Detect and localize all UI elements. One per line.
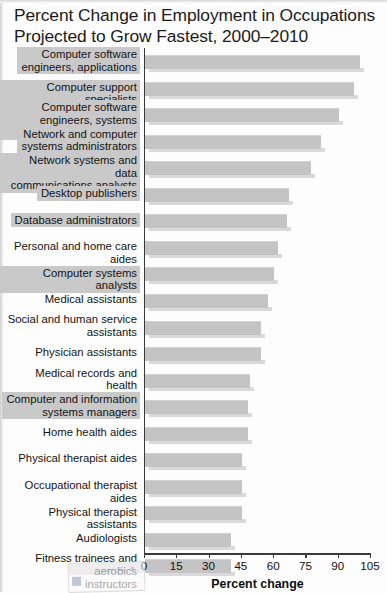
app-icon — [72, 577, 81, 586]
page-top-edge — [0, 0, 387, 3]
minimize-icon[interactable]: – — [107, 565, 114, 572]
bar-row — [145, 559, 231, 572]
background-window-artifact[interactable]: – □ × — [68, 561, 146, 593]
y-axis-label: Physical therapist aides — [14, 451, 140, 466]
bar-row — [145, 55, 360, 68]
x-axis-tick — [176, 553, 177, 558]
bar-row — [145, 374, 250, 387]
bar[interactable] — [145, 267, 274, 281]
y-axis-label: Computer systems analysts — [0, 266, 140, 293]
x-axis-title: Percent change — [144, 577, 371, 591]
x-axis-tick — [144, 553, 145, 558]
bar[interactable] — [145, 400, 248, 414]
y-axis-label: Social and human service assistants — [4, 312, 140, 339]
y-axis-label: Personal and home care aides — [0, 239, 140, 266]
bar-row — [145, 453, 242, 466]
y-axis-label: Home health aides — [39, 425, 140, 440]
maximize-icon[interactable]: □ — [118, 565, 125, 572]
bar-row — [145, 533, 231, 546]
x-axis-tick-label: 45 — [234, 559, 247, 572]
x-axis-tick — [241, 553, 242, 558]
bar-row — [145, 267, 274, 280]
bar-row — [145, 347, 261, 360]
y-axis-label: Physical therapist assistants — [0, 505, 140, 532]
bar[interactable] — [145, 108, 339, 122]
bar-row — [145, 427, 248, 440]
bar[interactable] — [145, 294, 268, 308]
x-axis-tick — [370, 553, 371, 558]
bar[interactable] — [145, 135, 321, 149]
x-axis-tick-label: 30 — [202, 559, 215, 572]
x-axis-tick — [209, 553, 210, 558]
bar-chart: Computer software engineers, application… — [0, 48, 387, 560]
bar-row — [145, 321, 261, 334]
bar[interactable] — [145, 506, 242, 520]
x-axis-tick-label: 60 — [267, 559, 280, 572]
x-axis-tick-label: 105 — [360, 559, 379, 572]
bar[interactable] — [145, 374, 250, 388]
x-axis-tick — [305, 553, 306, 558]
bar-row — [145, 108, 339, 121]
chart-title: Percent Change in Employment in Occupati… — [14, 5, 382, 46]
y-axis-label: Network and computer systems administrat… — [17, 127, 140, 154]
y-axis-label: Database administrators — [11, 213, 140, 228]
y-axis-label: Occupational therapist aides — [0, 478, 140, 505]
bar[interactable] — [145, 427, 248, 441]
x-axis-tick-label: 90 — [331, 559, 344, 572]
bar-row — [145, 188, 289, 201]
plot-area — [144, 48, 371, 553]
y-axis-label: Computer software engineers, application… — [17, 47, 140, 74]
y-axis-label: Medical assistants — [41, 292, 140, 307]
bar[interactable] — [145, 533, 231, 547]
bar-row — [145, 294, 268, 307]
bar[interactable] — [145, 161, 311, 175]
bar[interactable] — [145, 347, 261, 361]
y-axis-label: Audiologists — [72, 531, 140, 546]
bar-row — [145, 400, 248, 413]
x-axis-tick-label: 75 — [299, 559, 312, 572]
x-axis-tick — [273, 553, 274, 558]
bar[interactable] — [145, 321, 261, 335]
bar[interactable] — [145, 214, 287, 228]
y-axis-label: Computer and information systems manager… — [2, 392, 140, 419]
bar-row — [145, 82, 354, 95]
bar[interactable] — [145, 241, 278, 255]
bar[interactable] — [145, 82, 354, 96]
x-axis-tick-label: 15 — [170, 559, 183, 572]
bar-row — [145, 161, 311, 174]
bar[interactable] — [145, 55, 360, 69]
y-axis-label: Desktop publishers — [37, 186, 140, 201]
bar-row — [145, 506, 242, 519]
x-axis-tick — [338, 553, 339, 558]
bar-row — [145, 214, 287, 227]
y-axis-labels: Computer software engineers, application… — [0, 48, 140, 553]
bar[interactable] — [145, 188, 289, 202]
y-axis-label: Physician assistants — [31, 345, 140, 360]
bar-row — [145, 135, 321, 148]
close-icon[interactable]: × — [129, 565, 136, 572]
bar-row — [145, 241, 278, 254]
bar[interactable] — [145, 453, 242, 467]
bar-row — [145, 480, 242, 493]
bar[interactable] — [145, 480, 242, 494]
bar[interactable] — [145, 559, 231, 573]
